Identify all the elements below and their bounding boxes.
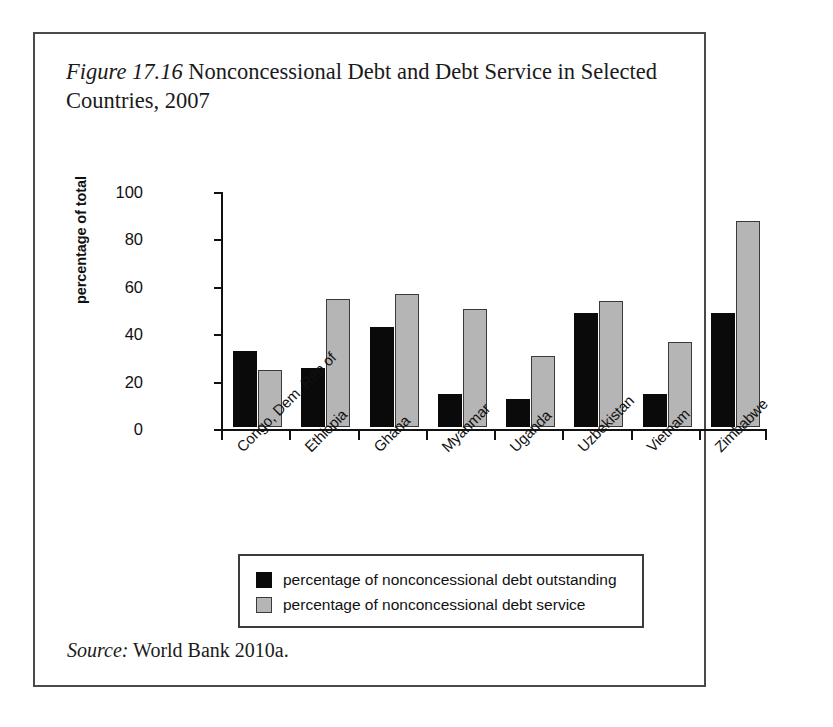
y-tick-label-20: 20 xyxy=(97,372,143,391)
x-tick-mark xyxy=(494,431,496,440)
y-tick-mark-40 xyxy=(214,334,222,336)
bar-group xyxy=(639,190,699,427)
chart-legend: percentage of nonconcessional debt outst… xyxy=(238,554,644,628)
bar-outstanding xyxy=(574,313,598,427)
y-tick-mark-80 xyxy=(214,239,222,241)
bar-group xyxy=(707,190,767,427)
bar-group xyxy=(229,190,289,427)
x-tick-mark xyxy=(699,431,701,440)
legend-item-service: percentage of nonconcessional debt servi… xyxy=(256,596,626,614)
x-tick-mark xyxy=(765,431,767,440)
x-tick-mark xyxy=(289,431,291,440)
bar-outstanding xyxy=(370,327,394,427)
x-tick-mark xyxy=(426,431,428,440)
x-tick-mark xyxy=(358,431,360,440)
bar-service xyxy=(395,294,419,427)
source-text: World Bank 2010a. xyxy=(133,639,289,661)
y-tick-mark-20 xyxy=(214,382,222,384)
bar-group xyxy=(434,190,494,427)
figure-source: Source: World Bank 2010a. xyxy=(67,639,289,662)
y-tick-mark-60 xyxy=(214,287,222,289)
legend-label-service: percentage of nonconcessional debt servi… xyxy=(283,596,585,614)
x-tick-mark xyxy=(562,431,564,440)
chart-plot-area: percentage of total 0 20 40 60 80 100 Co… xyxy=(35,34,708,689)
legend-item-outstanding: percentage of nonconcessional debt outst… xyxy=(256,571,626,589)
x-tick-mark xyxy=(221,431,223,440)
figure-frame: Figure 17.16 Nonconcessional Debt and De… xyxy=(33,32,706,687)
y-axis-line xyxy=(221,192,223,431)
legend-label-outstanding: percentage of nonconcessional debt outst… xyxy=(283,571,617,589)
bar-outstanding xyxy=(711,313,735,427)
y-tick-label-60: 60 xyxy=(97,277,143,296)
source-label: Source: xyxy=(67,639,128,661)
bar-group xyxy=(366,190,426,427)
bar-outstanding xyxy=(233,351,257,427)
y-tick-label-80: 80 xyxy=(97,230,143,249)
y-tick-mark-100 xyxy=(214,192,222,194)
legend-swatch-dark-icon xyxy=(256,572,272,588)
y-axis-title: percentage of total xyxy=(73,125,89,355)
legend-swatch-light-icon xyxy=(256,597,272,613)
y-tick-label-40: 40 xyxy=(97,325,143,344)
bar-group xyxy=(502,190,562,427)
y-tick-label-0: 0 xyxy=(97,420,143,439)
y-tick-label-100: 100 xyxy=(97,183,143,202)
x-tick-mark xyxy=(631,431,633,440)
bar-group xyxy=(570,190,630,427)
